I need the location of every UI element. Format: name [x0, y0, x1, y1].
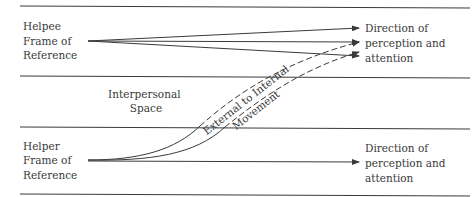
- top-divider: [20, 6, 470, 8]
- bottom-divider: [20, 194, 470, 196]
- helpee-arrow-bottom: [88, 41, 359, 56]
- helpee-arrow-middle: [88, 41, 359, 42]
- helpee-frame-label: Helpee Frame of Reference: [23, 20, 77, 61]
- interpersonal-space-label: Interpersonal Space: [108, 88, 184, 114]
- bottom-direction-label: Direction of perception and attention: [365, 142, 449, 184]
- upper-middle-divider: [20, 76, 470, 78]
- helpee-arrow-top: [88, 28, 359, 41]
- top-direction-label: Direction of perception and attention: [365, 22, 449, 64]
- helper-arrow: [88, 161, 359, 162]
- lower-middle-divider: [20, 127, 470, 129]
- helper-curve-upper-solid: [88, 126, 200, 160]
- helper-frame-label: Helper Frame of Reference: [23, 140, 77, 181]
- helping-frames-diagram: Helpee Frame of Reference Direction of p…: [0, 0, 473, 197]
